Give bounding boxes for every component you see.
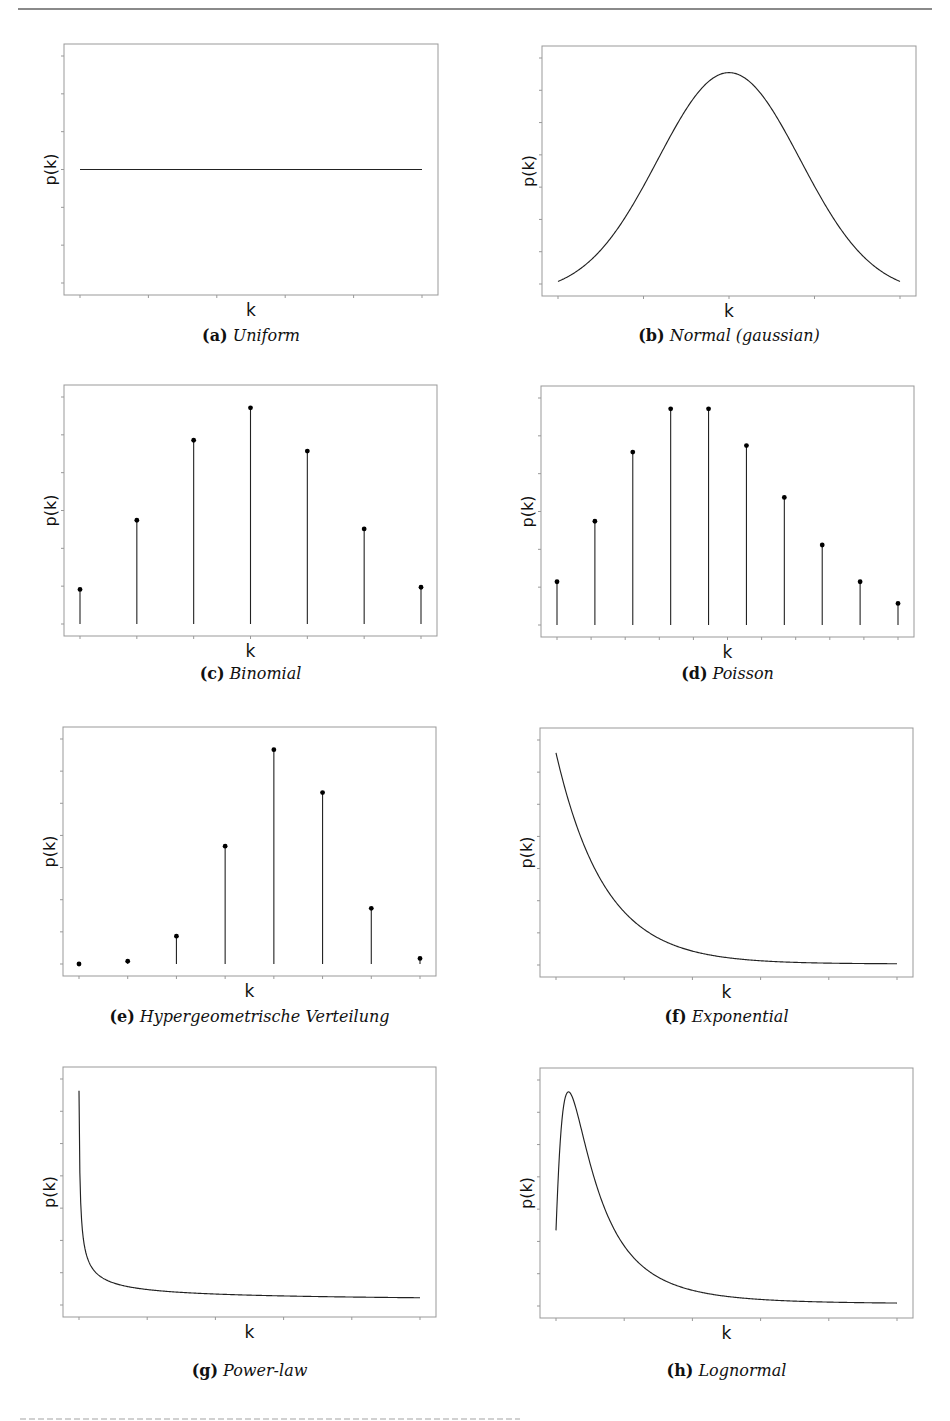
series-line xyxy=(556,753,897,964)
stem-marker xyxy=(418,956,423,961)
caption-title: Uniform xyxy=(233,326,300,345)
y-axis-label: p(k) xyxy=(517,837,536,869)
stem-marker xyxy=(706,406,711,411)
chart-panel-g: kp(k) xyxy=(40,1067,436,1342)
stem-marker xyxy=(77,962,82,967)
chart-panel-b: kp(k) xyxy=(519,46,916,321)
stem-marker xyxy=(744,443,749,448)
x-axis-label: k xyxy=(722,1323,732,1343)
caption-title: Hypergeometrische Verteilung xyxy=(140,1007,390,1026)
stem-marker xyxy=(555,579,560,584)
caption-label: (b) xyxy=(638,326,664,345)
plot-frame xyxy=(542,46,916,296)
caption-label: (g) xyxy=(192,1361,218,1380)
stem-marker xyxy=(125,959,130,964)
plot-frame xyxy=(540,728,913,977)
caption-label: (c) xyxy=(200,664,225,683)
stem-marker xyxy=(305,449,310,454)
caption-title: Exponential xyxy=(692,1007,789,1026)
plot-frame xyxy=(540,1068,913,1318)
y-axis-label: p(k) xyxy=(40,1176,59,1208)
stem-marker xyxy=(248,405,253,410)
chart-panel-e: kp(k) xyxy=(40,727,436,1001)
chart-panel-c: kp(k) xyxy=(41,385,437,661)
caption-e: (e) Hypergeometrische Verteilung xyxy=(109,1007,389,1026)
x-axis-label: k xyxy=(246,641,256,661)
caption-label: (e) xyxy=(109,1007,134,1026)
stem-marker xyxy=(320,790,325,795)
y-axis-label: p(k) xyxy=(41,154,60,186)
stem-marker xyxy=(78,587,83,592)
clipped-bottom-text xyxy=(20,1416,520,1421)
y-axis-label: p(k) xyxy=(41,495,60,527)
stem-marker xyxy=(782,495,787,500)
caption-c: (c) Binomial xyxy=(200,664,302,683)
distribution-figure: kp(k)kp(k)kp(k)kp(k)kp(k)kp(k)kp(k)kp(k) xyxy=(0,0,950,1421)
y-axis-label: p(k) xyxy=(518,496,537,528)
caption-title: Power-law xyxy=(223,1361,307,1380)
caption-h: (h) Lognormal xyxy=(667,1361,787,1380)
chart-panel-f: kp(k) xyxy=(517,728,913,1002)
chart-panel-h: kp(k) xyxy=(517,1068,913,1343)
x-axis-label: k xyxy=(245,981,255,1001)
stem-marker xyxy=(191,438,196,443)
x-axis-label: k xyxy=(723,642,733,662)
caption-g: (g) Power-law xyxy=(192,1361,308,1380)
caption-d: (d) Poisson xyxy=(681,664,774,683)
caption-title: Normal (gaussian) xyxy=(670,326,820,345)
caption-label: (a) xyxy=(202,326,228,345)
stem-marker xyxy=(668,406,673,411)
stem-marker xyxy=(858,579,863,584)
caption-b: (b) Normal (gaussian) xyxy=(638,326,820,345)
series-line xyxy=(79,1091,420,1298)
stem-marker xyxy=(271,747,276,752)
stem-marker xyxy=(630,450,635,455)
caption-title: Poisson xyxy=(713,664,774,683)
caption-a: (a) Uniform xyxy=(202,326,300,345)
plot-frame xyxy=(63,727,436,976)
stem-marker xyxy=(896,601,901,606)
series-line xyxy=(558,73,900,282)
caption-label: (f) xyxy=(665,1007,687,1026)
caption-title: Binomial xyxy=(230,664,302,683)
x-axis-label: k xyxy=(724,301,734,321)
stem-marker xyxy=(419,585,424,590)
caption-title: Lognormal xyxy=(698,1361,786,1380)
chart-panel-d: kp(k) xyxy=(518,386,914,662)
caption-label: (d) xyxy=(681,664,707,683)
stem-marker xyxy=(369,906,374,911)
stem-marker xyxy=(592,519,597,524)
x-axis-label: k xyxy=(722,982,732,1002)
caption-label: (h) xyxy=(667,1361,694,1380)
series-line xyxy=(556,1092,897,1303)
x-axis-label: k xyxy=(245,1322,255,1342)
stem-marker xyxy=(223,844,228,849)
stem-marker xyxy=(134,518,139,523)
chart-panel-a: kp(k) xyxy=(41,44,438,320)
stem-marker xyxy=(362,526,367,531)
stem-marker xyxy=(174,934,179,939)
stem-marker xyxy=(820,543,825,548)
plot-frame xyxy=(63,1067,436,1317)
y-axis-label: p(k) xyxy=(519,155,538,187)
y-axis-label: p(k) xyxy=(40,836,59,868)
y-axis-label: p(k) xyxy=(517,1177,536,1209)
plot-frame xyxy=(541,386,914,637)
caption-f: (f) Exponential xyxy=(665,1007,789,1026)
x-axis-label: k xyxy=(246,300,256,320)
